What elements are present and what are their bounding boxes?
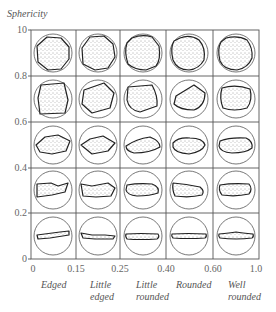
x-tick-0.40: 0.40	[157, 263, 175, 274]
grain-r3-c3	[126, 137, 160, 153]
category-well-rounded: Well rounded	[228, 279, 261, 303]
sphericity-roundness-grid	[0, 0, 276, 312]
grain-r2-c3	[127, 85, 157, 112]
grain-r4-c4	[173, 183, 203, 197]
grain-r3-c5	[219, 138, 252, 153]
category-line1: Little	[136, 279, 169, 291]
category-rounded: Rounded	[176, 279, 212, 291]
grain-r4-c5	[219, 184, 251, 196]
grain-r4-c3	[126, 184, 158, 196]
grain-r5-c5	[219, 232, 254, 239]
category-line1: Rounded	[176, 279, 212, 291]
grain-r2-c5	[221, 86, 251, 110]
grain-r2-c2	[82, 83, 114, 113]
grain-r2-c1	[38, 83, 68, 114]
grain-r3-c1	[36, 135, 70, 154]
grain-r5-c2	[81, 233, 115, 239]
x-tick-0.15: 0.15	[67, 263, 85, 274]
category-little-edged: Little edged	[90, 279, 114, 303]
grain-r4-c2	[81, 183, 115, 197]
grain-r4-c1	[37, 183, 68, 197]
grain-r1-c5	[219, 37, 252, 70]
grain-r5-c4	[172, 234, 207, 239]
category-line2: edged	[90, 291, 114, 303]
category-line1: Little	[90, 279, 114, 291]
category-line2: rounded	[228, 291, 261, 303]
grain-r1-c1	[37, 37, 69, 70]
grain-r2-c4	[174, 85, 205, 110]
x-tick-0.25: 0.25	[111, 263, 129, 274]
category-line2: rounded	[136, 291, 169, 303]
category-little-rounded: Little rounded	[136, 279, 169, 303]
x-tick-0.60: 0.60	[204, 263, 222, 274]
grain-r1-c2	[82, 36, 115, 70]
grain-r1-c4	[172, 36, 205, 70]
grain-r1-c3	[126, 36, 160, 70]
category-edged: Edged	[41, 279, 67, 291]
grain-r3-c4	[173, 138, 205, 154]
x-tick-1.0: 1.0	[250, 263, 263, 274]
category-line1: Edged	[41, 279, 67, 291]
category-line1: Well	[228, 279, 261, 291]
grain-r3-c2	[81, 136, 115, 154]
x-tick-0: 0	[31, 263, 36, 274]
grain-r5-c1	[37, 231, 69, 239]
grain-r5-c3	[126, 234, 159, 240]
